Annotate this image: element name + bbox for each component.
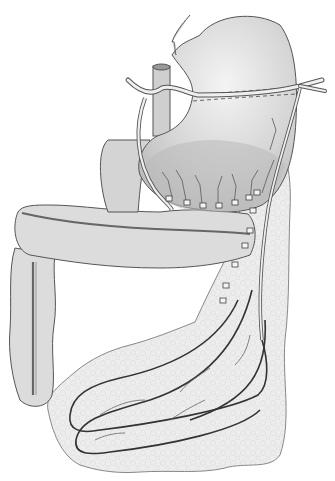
anatomy-illustration bbox=[0, 0, 335, 481]
aorta bbox=[153, 66, 170, 136]
transverse-colon bbox=[15, 205, 255, 268]
